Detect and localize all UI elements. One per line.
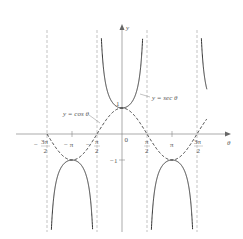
x-tick-neg-3pi-2-num: 3π <box>41 138 49 146</box>
cos-label: y = cos θ <box>62 110 89 118</box>
y-tick-1: 1 <box>116 100 120 108</box>
x-tick-neg-pi-2-num: π <box>95 138 99 146</box>
x-tick-neg-pi: − π <box>64 141 74 149</box>
sec-label-leader <box>140 94 150 97</box>
x-tick-pi-2-den: 2 <box>145 147 149 155</box>
x-tick-neg-3pi-2-den: 2 <box>44 147 48 155</box>
x-tick-neg-pi-2-sign: − <box>86 141 90 149</box>
x-axis-label: θ <box>227 139 231 147</box>
x-tick-pi: π <box>170 141 174 149</box>
sec-label: y = sec θ <box>151 94 178 102</box>
x-tick-neg-pi-2-den: 2 <box>95 147 99 155</box>
x-tick-pi-2-num: π <box>145 138 149 146</box>
x-tick-3pi-2-den: 2 <box>197 147 201 155</box>
x-tick-3pi-2-num: 3π <box>194 138 202 146</box>
y-axis-label: y <box>125 24 130 32</box>
origin-label: 0 <box>125 136 129 144</box>
secant-cosine-graph: y θ 0 1 −1 y = sec θ y = cos θ − 3π 2 − … <box>0 0 243 239</box>
x-axis-arrow-icon <box>225 132 231 137</box>
y-axis-arrow-icon <box>120 24 125 30</box>
y-tick-neg-1: −1 <box>110 157 118 165</box>
x-tick-neg-3pi-2-sign: − <box>34 141 38 149</box>
cos-label-leader <box>89 115 100 123</box>
